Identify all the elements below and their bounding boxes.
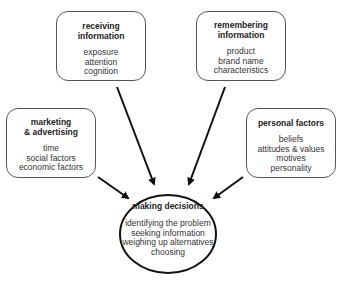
- node-title: remembering information: [197, 20, 285, 40]
- node-title: making decisions: [113, 201, 223, 211]
- node-personal-factors: personal factors beliefs attitudes & val…: [246, 108, 336, 178]
- title-line: information: [57, 31, 145, 41]
- node-marketing-advertising: marketing & advertising time social fact…: [6, 108, 96, 178]
- item: characteristics: [197, 66, 285, 76]
- node-making-decisions: making decisions identifying the problem…: [113, 201, 223, 257]
- node-receiving-information: receiving information exposure attention…: [56, 11, 146, 81]
- node-title: personal factors: [247, 118, 335, 128]
- title-line: making decisions: [113, 201, 223, 211]
- node-items: identifying the problem seeking informat…: [113, 219, 223, 257]
- node-items: product brand name characteristics: [197, 47, 285, 76]
- title-line: receiving: [57, 21, 145, 31]
- arrow-personal-to-decisions: [214, 177, 243, 198]
- item: economic factors: [7, 163, 95, 173]
- node-title: receiving information: [57, 21, 145, 41]
- title-line: remembering: [197, 20, 285, 30]
- item: choosing: [113, 248, 223, 258]
- node-items: exposure attention cognition: [57, 48, 145, 77]
- title-line: personal factors: [247, 118, 335, 128]
- node-remembering-information: remembering information product brand na…: [196, 11, 286, 81]
- title-line: marketing: [7, 117, 95, 127]
- title-line: information: [197, 30, 285, 40]
- node-items: time social factors economic factors: [7, 144, 95, 173]
- arrow-receiving-to-decisions: [117, 87, 154, 184]
- item: personality: [247, 164, 335, 174]
- arrow-remembering-to-decisions: [189, 87, 225, 184]
- title-line: & advertising: [7, 127, 95, 137]
- arrow-marketing-to-decisions: [98, 177, 128, 198]
- node-title: marketing & advertising: [7, 117, 95, 137]
- item: cognition: [57, 67, 145, 77]
- node-items: beliefs attitudes & values motives perso…: [247, 135, 335, 173]
